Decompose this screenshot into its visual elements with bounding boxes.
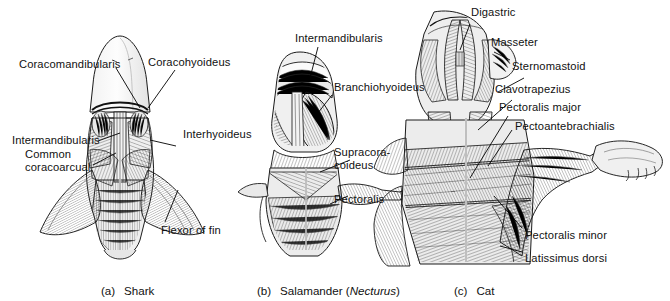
label-intermandibularis-shark: Intermandibularis [12,134,100,147]
label-pectoralis-major: Pectoralis major [499,101,581,114]
caption-text-c: Cat [476,284,494,297]
label-supracoracoideus-line1: Supracora- [334,146,390,159]
label-common-coracoarcual-line2: coracoarcual [25,161,90,174]
caption-index-b: (b) [257,284,271,297]
caption-index-a: (a) [101,284,115,297]
cat-drawing [374,11,662,266]
caption-text-b-tail: ) [396,284,400,297]
label-interhyoideus: Interhyoideus [183,128,252,141]
label-coracomandibularis: Coracomandibularis [19,58,121,71]
label-supracoracoideus-line2: coideus [334,159,373,172]
label-digastric: Digastric [471,6,516,19]
caption-genus-necturus: Necturus [350,284,396,297]
caption-text-b: Salamander ( [280,284,350,297]
label-branchiohyoideus: Branchiohyoideus [334,81,425,94]
label-clavotrapezius: Clavotrapezius [495,83,571,96]
caption-index-c: (c) [454,284,468,297]
label-masseter: Masseter [491,36,538,49]
label-intermandibularis-salamander: Intermandibularis [295,32,383,45]
label-flexor-of-fin: Flexor of fin [161,224,221,237]
label-pectoantebrachialis: Pectoantebrachialis [515,120,615,133]
caption-text-a: Shark [124,284,154,297]
label-pectoralis-salamander: Pectoralis [334,193,384,206]
label-pectoralis-minor: Pectoralis minor [525,229,607,242]
caption-salamander: (b)Salamander (Necturus) [244,271,400,301]
label-coracohyoideus: Coracohyoideus [148,56,230,69]
label-sternomastoid: Sternomastoid [512,60,586,73]
label-latissimus-dorsi: Latissimus dorsi [525,252,607,265]
caption-cat: (c)Cat [441,271,494,301]
caption-shark: (a)Shark [88,271,154,301]
label-common-coracoarcual-line1: Common [25,148,71,161]
